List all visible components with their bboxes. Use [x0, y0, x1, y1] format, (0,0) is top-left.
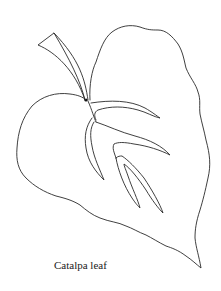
- figure-caption: Catalpa leaf: [54, 259, 107, 271]
- leaf-midrib: [88, 101, 96, 122]
- leaf-stem-inner: [54, 33, 88, 100]
- leaf-vein-middle: [96, 122, 170, 158]
- leaf-vein-left: [85, 118, 104, 180]
- leaf-vein-lower-left: [116, 156, 163, 213]
- catalpa-leaf-drawing: [0, 0, 221, 291]
- leaf-vein-upper: [91, 101, 160, 120]
